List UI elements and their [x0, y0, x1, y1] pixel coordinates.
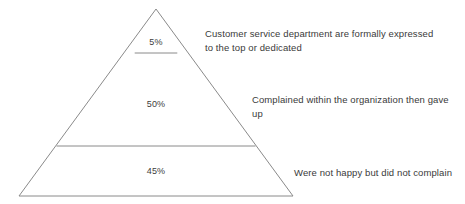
- tier-middle-label: Complained within the organization then …: [252, 93, 452, 120]
- tier-bottom-label: Were not happy but did not complain: [294, 166, 465, 180]
- tier-middle-percent: 50%: [135, 99, 177, 109]
- tier-top-label: Customer service department are formally…: [205, 27, 435, 54]
- tier-top-percent: 5%: [136, 37, 176, 47]
- pyramid-diagram: 5% 50% 45% Customer service department a…: [0, 0, 465, 204]
- tier-bottom-percent: 45%: [135, 166, 177, 176]
